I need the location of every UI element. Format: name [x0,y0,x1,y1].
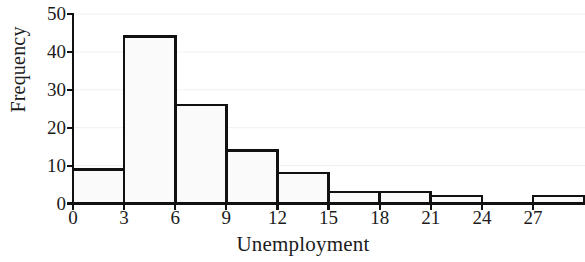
histogram-chart: Frequency 01020304050 0369121518212427 U… [0,0,585,262]
histogram-bar [175,105,226,204]
histogram-bar [124,37,175,204]
x-tick-label: 21 [411,208,451,227]
x-tick-label: 24 [462,208,502,227]
x-tick-label: 6 [155,208,195,227]
x-tick-label: 18 [360,208,400,227]
x-tick-label: 15 [309,208,349,227]
histogram-bar [73,169,124,203]
x-tick-label: 0 [53,208,93,227]
histogram-bar [380,192,431,203]
histogram-bar [329,192,380,203]
histogram-bar [277,173,328,203]
x-tick-label: 3 [104,208,144,227]
x-tick-label: 27 [513,208,553,227]
x-axis-label: Unemployment [73,232,533,257]
histogram-bar [226,150,277,203]
x-tick-label: 9 [206,208,246,227]
x-tick-label: 12 [257,208,297,227]
histogram-bars [73,37,584,204]
